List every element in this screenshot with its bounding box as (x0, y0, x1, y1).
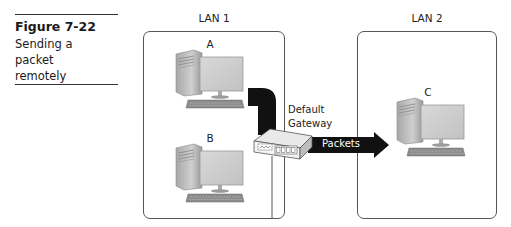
computer-b-icon (176, 144, 244, 202)
diagram-graphics (0, 0, 511, 227)
gateway-label-line2: Gateway (288, 117, 332, 131)
computer-a-label: A (200, 38, 220, 50)
computer-c-label: C (418, 86, 438, 98)
computer-b-label: B (200, 132, 220, 144)
computer-a-icon (176, 50, 244, 108)
gateway-label: Default Gateway (288, 103, 332, 131)
packets-arrow-label: Packets (322, 138, 360, 149)
gateway-label-line1: Default (288, 103, 332, 117)
computer-c-icon (397, 98, 465, 156)
